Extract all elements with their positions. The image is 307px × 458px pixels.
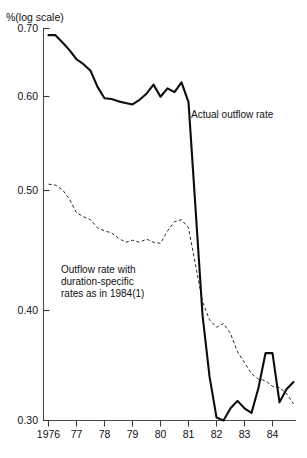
series-line-actual — [49, 35, 294, 420]
y-tick-label-3: 0.40 — [18, 304, 39, 316]
annotation-actual-outflow-rate: Actual outflow rate — [191, 109, 274, 120]
x-tick-label-2: 78 — [99, 428, 111, 440]
y-tick-marks — [44, 29, 50, 421]
x-tick-label-4: 80 — [155, 428, 167, 440]
x-tick-labels: 1976 77 78 79 80 81 82 83 84 — [37, 428, 279, 440]
x-tick-label-5: 81 — [183, 428, 195, 440]
annotation-counterfactual-line-1: Outflow rate with — [61, 264, 135, 275]
x-tick-label-8: 84 — [267, 428, 279, 440]
annotation-counterfactual-line-2: duration-specific — [61, 276, 134, 287]
annotation-counterfactual: Outflow rate with duration-specific rate… — [61, 264, 144, 299]
x-tick-marks — [49, 421, 273, 427]
y-tick-label-2: 0.50 — [18, 184, 39, 196]
x-tick-label-6: 82 — [211, 428, 223, 440]
x-tick-label-7: 83 — [239, 428, 251, 440]
x-tick-label-0: 1976 — [37, 428, 61, 440]
y-tick-labels: 0.70 0.60 0.50 0.40 0.30 — [18, 22, 39, 426]
y-tick-label-4: 0.30 — [18, 414, 39, 426]
chart-figure: %(log scale) 0.70 0.60 0.50 0.40 0.30 — [0, 0, 307, 458]
x-tick-label-3: 79 — [127, 428, 139, 440]
x-tick-label-1: 77 — [71, 428, 83, 440]
y-tick-label-0: 0.70 — [18, 22, 39, 34]
y-tick-label-1: 0.60 — [18, 90, 39, 102]
annotation-counterfactual-line-3: rates as in 1984(1) — [61, 288, 144, 299]
outflow-rate-line-chart: %(log scale) 0.70 0.60 0.50 0.40 0.30 — [0, 0, 307, 458]
